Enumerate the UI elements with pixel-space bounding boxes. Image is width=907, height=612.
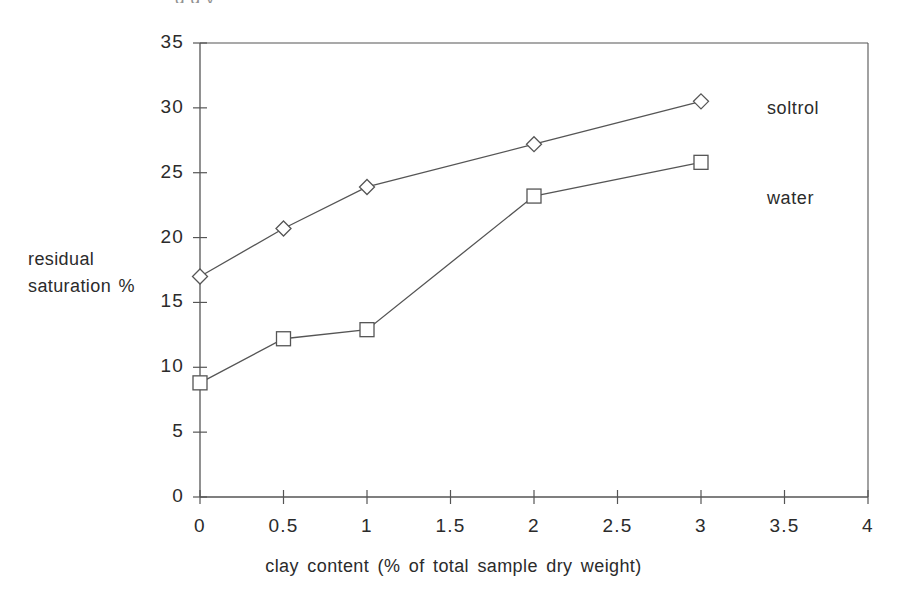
marker-water-1 [277, 332, 291, 346]
x-tick-label-3: 1.5 [411, 515, 491, 537]
y-axis-title: residual saturation % [28, 246, 208, 300]
x-tick-label-2: 1 [327, 515, 407, 537]
marker-soltrol-2 [360, 179, 375, 194]
marker-water-2 [360, 323, 374, 337]
marker-soltrol-4 [694, 94, 709, 109]
x-tick-label-1: 0.5 [244, 515, 324, 537]
series-soltrol [193, 94, 709, 284]
y-tick-label-1: 5 [112, 420, 184, 442]
x-tick-label-4: 2 [494, 515, 574, 537]
marker-soltrol-3 [527, 137, 542, 152]
series-label-water: water [767, 188, 814, 209]
x-tick-label-7: 3.5 [745, 515, 825, 537]
y-tick-label-6: 30 [112, 96, 184, 118]
marker-water-0 [193, 376, 207, 390]
y-tick-label-7: 35 [112, 31, 184, 53]
series-line-soltrol [200, 101, 701, 276]
y-tick-label-2: 10 [112, 355, 184, 377]
x-tick-label-5: 2.5 [578, 515, 658, 537]
y-tick-label-5: 25 [112, 161, 184, 183]
series-line-water [200, 162, 701, 383]
y-axis-title-line-1: residual [28, 246, 208, 273]
marker-soltrol-1 [276, 221, 291, 236]
marker-water-4 [694, 155, 708, 169]
marker-water-3 [527, 189, 541, 203]
y-tick-label-0: 0 [112, 485, 184, 507]
series-water [193, 155, 708, 390]
data-series [193, 94, 709, 390]
y-tick-label-4: 20 [112, 226, 184, 248]
x-tick-label-0: 0 [160, 515, 240, 537]
x-tick-label-6: 3 [661, 515, 741, 537]
series-label-soltrol: soltrol [767, 98, 819, 119]
x-tick-label-8: 4 [828, 515, 907, 537]
y-axis-title-line-2: saturation % [28, 273, 208, 300]
chart-figure: g g y 0510152025303500.511.522.533.54 re… [0, 0, 907, 612]
x-axis-title: clay content (% of total sample dry weig… [0, 556, 907, 577]
